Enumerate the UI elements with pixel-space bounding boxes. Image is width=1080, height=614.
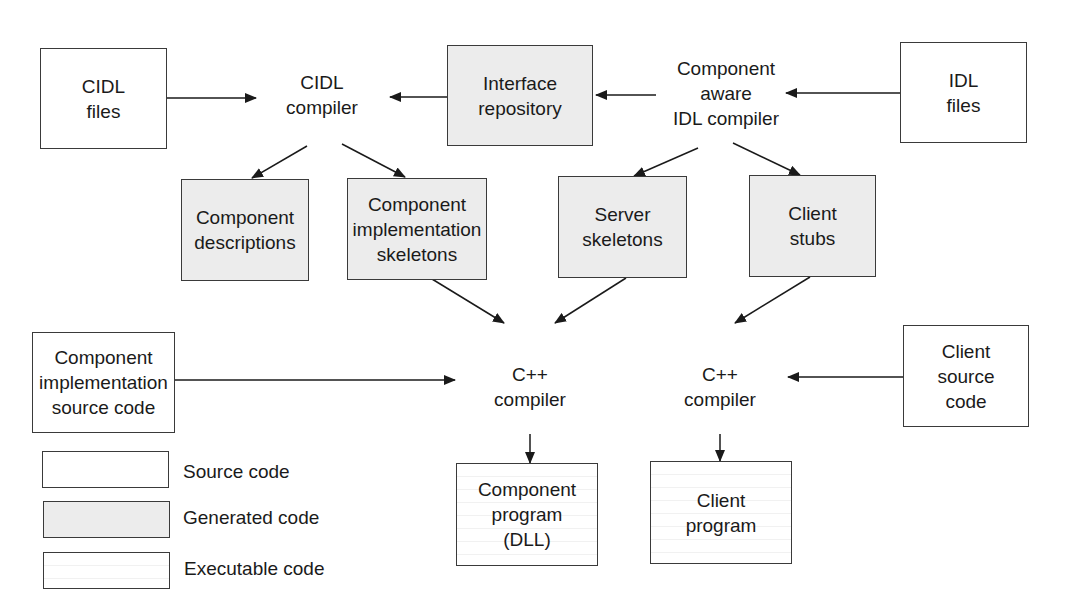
component-implementation-source-code-label: Component implementation source code [39, 345, 168, 420]
client-source-code-label: Client source code [937, 339, 994, 414]
legend-label-generated: Generated code [183, 506, 319, 530]
server-skeletons-label: Server skeletons [582, 202, 662, 252]
arrow-idl-compiler-to-client-stubs [733, 143, 800, 175]
component-program-node: Component program (DLL) [456, 463, 598, 566]
client-program-node: Client program [650, 461, 792, 564]
component-implementation-source-code-node: Component implementation source code [32, 332, 175, 433]
cidl-compiler-node: CIDL compiler [262, 70, 382, 120]
component-aware-idl-compiler-node: Component aware IDL compiler [655, 56, 797, 131]
arrow-cidl-compiler-to-descriptions [252, 146, 307, 178]
legend-swatch-executable [43, 552, 170, 589]
arrow-server-skeletons-to-cpp [555, 278, 626, 323]
component-program-label: Component program (DLL) [478, 477, 576, 552]
idl-files-label: IDL files [947, 68, 981, 118]
client-source-code-node: Client source code [903, 325, 1029, 427]
legend-label-executable: Executable code [184, 557, 325, 581]
component-descriptions-node: Component descriptions [181, 179, 309, 281]
component-implementation-skeletons-label: Component implementation skeletons [353, 192, 482, 267]
interface-repository-label: Interface repository [478, 71, 561, 121]
legend-swatch-source [42, 451, 169, 488]
arrow-idl-compiler-to-server-skeletons [634, 148, 698, 176]
arrow-impl-skeletons-to-cpp [432, 279, 504, 323]
cidl-files-node: CIDL files [40, 48, 167, 149]
legend-swatch-generated [43, 501, 170, 538]
legend-label-source: Source code [183, 460, 290, 484]
cidl-files-label: CIDL files [82, 74, 125, 124]
client-program-label: Client program [686, 488, 757, 538]
cpp-compiler-client-node: C++ compiler [660, 362, 780, 412]
client-stubs-node: Client stubs [749, 175, 876, 277]
component-descriptions-label: Component descriptions [194, 205, 295, 255]
server-skeletons-node: Server skeletons [558, 176, 687, 278]
idl-files-node: IDL files [900, 42, 1027, 143]
client-stubs-label: Client stubs [788, 201, 837, 251]
component-implementation-skeletons-node: Component implementation skeletons [347, 178, 487, 280]
arrow-client-stubs-to-cpp [735, 277, 810, 323]
cpp-compiler-component-node: C++ compiler [470, 362, 590, 412]
interface-repository-node: Interface repository [447, 45, 593, 146]
arrow-cidl-compiler-to-impl-skeletons [342, 144, 405, 177]
